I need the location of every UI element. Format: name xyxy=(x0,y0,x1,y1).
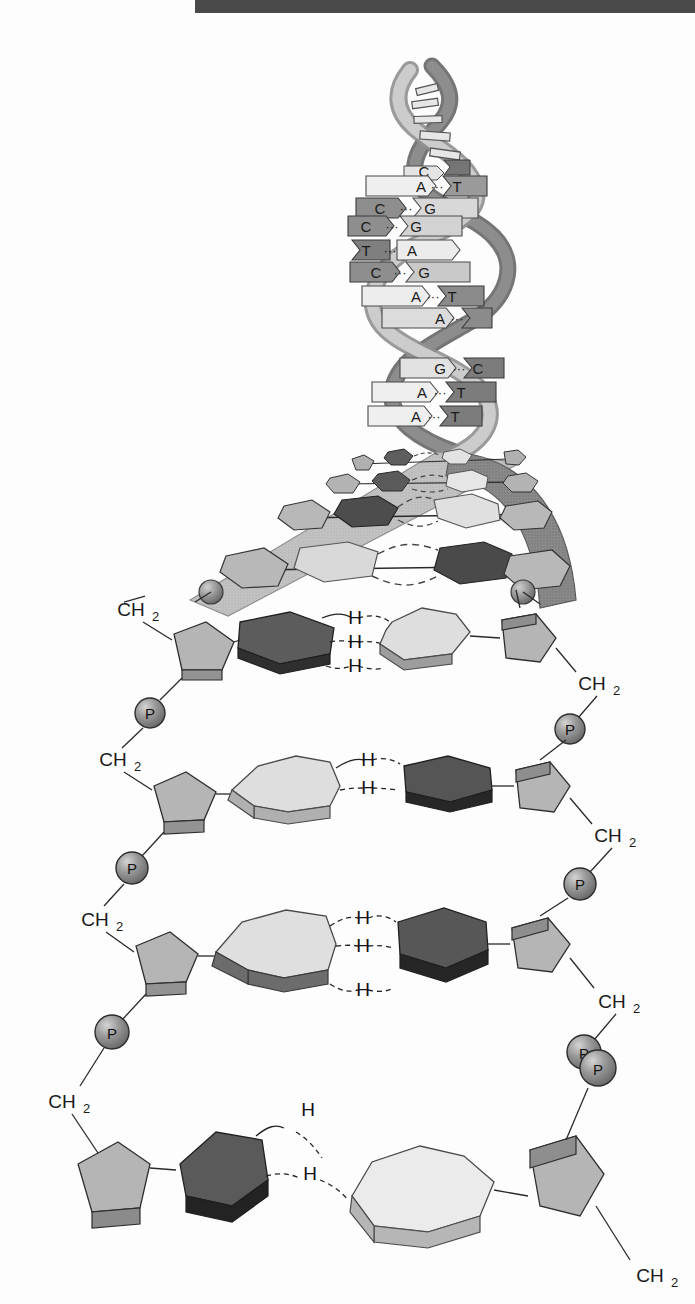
phosphate-label: P xyxy=(127,860,137,877)
phosphate-label: P xyxy=(107,1025,117,1042)
helix-base-pair: C ··· G xyxy=(350,262,470,282)
phosphate-circle: P xyxy=(116,852,148,884)
ladder-rung-4: CH 2 H H xyxy=(48,1048,678,1290)
ch2-label: CH xyxy=(117,599,144,620)
hydrogen-bond-label: H xyxy=(303,1163,317,1184)
base-letter-right: C xyxy=(473,360,484,377)
sugar-pentagon xyxy=(516,762,570,812)
base-purine-light xyxy=(380,608,470,670)
helix-base-pair: A ··· T xyxy=(362,286,484,306)
phosphate-label: P xyxy=(565,721,575,738)
base-letter-left: C xyxy=(371,264,382,281)
hydrogen-bond-label: H xyxy=(348,655,362,676)
ch2-subscript: 2 xyxy=(83,1101,90,1116)
sugar-pentagon xyxy=(530,1136,604,1216)
base-letter-right: A xyxy=(407,242,417,259)
dna-figure: C A ··· T C ··· G xyxy=(0,0,695,1304)
sugar-pentagon xyxy=(78,1142,150,1228)
base-letter-left: G xyxy=(434,360,446,377)
base-letter-right: T xyxy=(452,178,461,195)
base-pair-dots: ··· xyxy=(431,179,444,194)
base-letter-left: A xyxy=(435,310,445,327)
phosphate-circle: P xyxy=(564,868,596,900)
hydrogen-bond-label: H xyxy=(361,749,375,770)
phosphate-label: P xyxy=(575,876,585,893)
ch2-label: CH xyxy=(578,673,605,694)
ladder-rung-1: CH 2 P H xyxy=(117,590,620,744)
hydrogen-bonds: H H xyxy=(336,749,400,798)
ch2-label: CH xyxy=(636,1265,663,1286)
base-purine-light xyxy=(350,1146,494,1248)
phosphate-circle: P xyxy=(95,1015,129,1049)
helix-base-pair: A ··· T xyxy=(366,176,487,196)
base-letter-right: G xyxy=(418,264,430,281)
dna-diagram-canvas: C A ··· T C ··· G xyxy=(0,0,695,1304)
hydrogen-bond-label: H xyxy=(348,607,362,628)
ch2-label: CH xyxy=(594,825,621,846)
ch2-subscript: 2 xyxy=(116,919,123,934)
base-letter-left: A xyxy=(416,178,426,195)
hydrogen-bonds: H H H xyxy=(322,607,390,676)
hydrogen-bond-label: H xyxy=(356,979,370,1000)
phosphate-circle: P xyxy=(555,714,585,744)
double-helix-group: C A ··· T C ··· G xyxy=(348,66,508,456)
hydrogen-bond-label: H xyxy=(356,907,370,928)
base-letter-right: T xyxy=(447,288,456,305)
ch2-subscript: 2 xyxy=(134,759,141,774)
base-pair-dots: ··· xyxy=(434,385,447,400)
base-letter-left: A xyxy=(411,408,421,425)
hydrogen-bonds: H H H xyxy=(330,907,396,1000)
ch2-label: CH xyxy=(99,749,126,770)
base-pair-dots: ··· xyxy=(400,201,413,216)
ch2-label: CH xyxy=(598,991,625,1012)
ladder-rung-3: CH 2 P H xyxy=(81,884,640,1069)
top-header-bar xyxy=(195,0,695,13)
helix-base-pair: G ··· C xyxy=(400,358,504,378)
base-letter-left: T xyxy=(361,242,370,259)
phosphate-label: P xyxy=(145,705,155,722)
base-pair-dots: ··· xyxy=(453,361,466,376)
base-hexagon-dark xyxy=(238,612,334,674)
sugar-pentagon xyxy=(512,918,570,972)
base-pair-dots: ··· xyxy=(451,311,464,326)
base-letter-right: G xyxy=(424,200,436,217)
ch2-subscript: 2 xyxy=(152,609,159,624)
base-hexagon-dark xyxy=(404,756,492,812)
hydrogen-bonds: H H xyxy=(256,1099,348,1200)
helix-base-pair: A ··· T xyxy=(368,406,482,426)
helix-base-pair: T ··· A xyxy=(352,240,460,260)
ch2-subscript: 2 xyxy=(633,1001,640,1016)
sugar-pentagon xyxy=(502,614,556,662)
base-pair-dots: ··· xyxy=(427,289,440,304)
base-hexagon-dark xyxy=(398,908,488,982)
base-letter-right: G xyxy=(410,218,422,235)
ladder-rung-2: CH 2 P H xyxy=(99,728,636,900)
sugar-pentagon xyxy=(174,622,234,680)
base-pair-dots: ··· xyxy=(428,409,441,424)
ch2-subscript: 2 xyxy=(671,1275,678,1290)
ch2-label: CH xyxy=(81,909,108,930)
ch2-subscript: 2 xyxy=(629,835,636,850)
helix-base-pair: A ··· xyxy=(382,308,492,328)
helix-base-pair: A ··· T xyxy=(372,382,496,402)
base-hexagon-dark xyxy=(180,1132,268,1222)
base-pair-dots: ··· xyxy=(394,265,407,280)
hydrogen-bond-label: H xyxy=(356,935,370,956)
phosphate-circle: P xyxy=(580,1050,616,1086)
base-letter-left: C xyxy=(361,218,372,235)
helix-base-pair: C ··· G xyxy=(348,216,462,236)
base-letter-right: T xyxy=(450,408,459,425)
base-letter-left: C xyxy=(375,200,386,217)
phosphate-label: P xyxy=(593,1061,603,1078)
unwinding-fan-group xyxy=(190,449,576,616)
base-purine-light xyxy=(228,756,340,824)
sugar-pentagon xyxy=(154,772,216,834)
base-letter-left: A xyxy=(411,288,421,305)
base-pair-dots: ··· xyxy=(384,243,397,258)
ch2-subscript: 2 xyxy=(613,683,620,698)
base-purine-light xyxy=(212,910,336,992)
hydrogen-bond-label: H xyxy=(348,631,362,652)
base-letter-right: T xyxy=(456,384,465,401)
hydrogen-bond-label: H xyxy=(361,777,375,798)
helix-base-pair: C ··· G xyxy=(356,198,478,218)
